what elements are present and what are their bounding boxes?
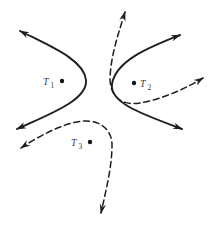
- point-label-t1-subscript: 1: [51, 81, 55, 90]
- dashed-trajectory-top-right: [110, 12, 203, 104]
- point-label-t3: T: [71, 137, 78, 148]
- point-dot-t2: [132, 81, 136, 85]
- solid-trajectory-left: [17, 31, 86, 129]
- point-label-t2: T: [140, 78, 147, 89]
- diagram-svg: T 1 T 2 T 3: [0, 0, 213, 226]
- dashed-trajectory-bottom-left: [21, 121, 112, 213]
- point-dot-t3: [88, 140, 92, 144]
- point-label-t3-subscript: 3: [79, 142, 83, 151]
- point-label-t1: T: [43, 76, 50, 87]
- point-dot-t1: [60, 79, 64, 83]
- trajectory-diagram: T 1 T 2 T 3: [0, 0, 213, 226]
- point-label-t2-subscript: 2: [148, 83, 152, 92]
- solid-trajectory-right: [112, 35, 182, 129]
